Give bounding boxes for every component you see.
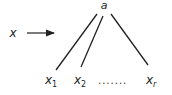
tree-edge bbox=[56, 14, 97, 70]
tree-edge bbox=[81, 16, 103, 67]
leaf-node-label: x2 bbox=[73, 73, 86, 89]
ellipsis: ....... bbox=[98, 75, 127, 86]
tree-edges bbox=[56, 14, 148, 70]
leaf-node-label: xr bbox=[145, 73, 157, 89]
leaf-node-label: x1 bbox=[44, 73, 57, 89]
root-node-label: a bbox=[101, 0, 108, 12]
tree-diagram: a x x1x2xr ....... bbox=[0, 0, 172, 95]
tree-edge bbox=[111, 14, 148, 65]
input-label: x bbox=[8, 26, 17, 40]
